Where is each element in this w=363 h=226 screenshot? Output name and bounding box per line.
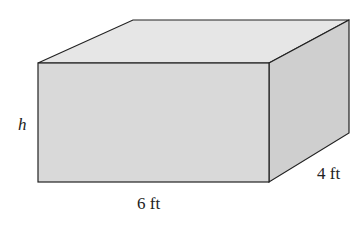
box-diagram: h 6 ft 4 ft bbox=[0, 0, 363, 226]
depth-label: 4 ft bbox=[317, 164, 340, 183]
front-face bbox=[38, 63, 269, 182]
height-label: h bbox=[18, 115, 27, 134]
length-label: 6 ft bbox=[137, 194, 160, 213]
